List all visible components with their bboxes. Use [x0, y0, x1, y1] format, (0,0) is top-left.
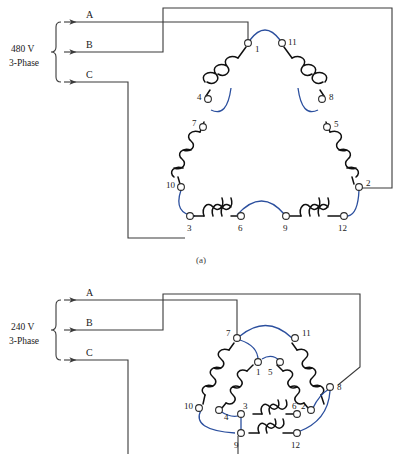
terminal-b-3[interactable] [238, 411, 245, 418]
terminal-a-11[interactable] [279, 40, 286, 47]
source-brace-b [51, 300, 61, 360]
terminal-a-5[interactable] [324, 124, 331, 131]
terminal-label-a-1: 1 [255, 44, 260, 54]
line-label-a-B: B [86, 39, 93, 50]
coil-a-9-12 [290, 198, 340, 216]
jumper-a-12-2 [348, 190, 359, 216]
line-label-b-A: A [86, 287, 94, 298]
terminal-b-6[interactable] [294, 411, 301, 418]
terminal-b-7[interactable] [234, 335, 241, 342]
terminal-b-2[interactable] [308, 407, 315, 414]
jumper-a-4-7 [211, 88, 231, 112]
terminal-b-12[interactable] [294, 430, 301, 437]
terminal-a-10[interactable] [178, 184, 185, 191]
jumper-a-1-11 [250, 30, 280, 40]
terminal-a-9[interactable] [283, 213, 290, 220]
coil-b-7-10 [202, 343, 234, 404]
line-label-b-C: C [86, 347, 93, 358]
line-wire-a-B [76, 8, 392, 188]
terminal-b-11[interactable] [292, 335, 299, 342]
terminal-b-8[interactable] [327, 384, 334, 391]
line-label-a-C: C [86, 69, 93, 80]
terminal-label-b-6: 6 [292, 401, 297, 411]
diagram-b: 240 V 3-Phase A B C [9, 287, 360, 454]
coil-a-11-8 [284, 47, 327, 96]
terminal-label-b-3: 3 [243, 401, 248, 411]
jumper-a-8-5 [298, 88, 318, 112]
source-voltage-b: 240 V [11, 322, 34, 332]
terminal-b-5[interactable] [277, 359, 284, 366]
terminal-b-10[interactable] [196, 405, 203, 412]
source-phase-b: 3-Phase [9, 336, 39, 346]
terminal-b-4[interactable] [216, 407, 223, 414]
terminal-a-2[interactable] [356, 184, 363, 191]
jumper-a-6-9 [237, 201, 285, 215]
terminal-label-b-8: 8 [337, 382, 342, 392]
terminal-a-4[interactable] [205, 96, 212, 103]
line-wire-b-C [76, 360, 128, 454]
terminal-label-b-5: 5 [268, 367, 273, 377]
coil-b-1-4 [222, 365, 253, 408]
terminal-label-a-5: 5 [334, 119, 339, 129]
coil-b-9-12 [249, 419, 293, 433]
terminal-b-1[interactable] [255, 359, 262, 366]
line-wire-a-C [76, 82, 185, 238]
coil-a-3-6 [193, 198, 238, 216]
terminal-label-b-11: 11 [302, 328, 311, 338]
terminal-label-a-3: 3 [187, 223, 192, 233]
coil-a-7-10 [172, 122, 204, 184]
terminal-a-7[interactable] [200, 124, 207, 131]
terminal-label-a-12: 12 [338, 223, 347, 233]
terminal-label-a-11: 11 [288, 37, 297, 47]
terminal-label-b-7: 7 [226, 328, 231, 338]
terminal-label-a-2: 2 [366, 178, 371, 188]
line-wire-a-A [76, 22, 248, 40]
jumper-a-10-3 [179, 190, 195, 216]
jumper-b-10-9 [199, 410, 235, 433]
terminal-a-3[interactable] [187, 213, 194, 220]
terminal-label-a-10: 10 [166, 180, 176, 190]
terminal-b-9[interactable] [238, 430, 245, 437]
terminal-label-b-1: 1 [256, 367, 261, 377]
line-label-b-B: B [86, 317, 93, 328]
terminal-label-b-12: 12 [291, 440, 300, 450]
terminal-label-b-10: 10 [184, 401, 194, 411]
jumper-b-7-1 [240, 340, 258, 360]
motor-connection-diagrams: 480 V 3-Phase A B C [0, 0, 405, 454]
terminal-label-b-4: 4 [224, 412, 229, 422]
source-voltage-a: 480 V [11, 44, 34, 54]
figure-container: 480 V 3-Phase A B C [0, 0, 405, 454]
terminal-label-a-7: 7 [192, 118, 197, 128]
line-wire-b-B [76, 294, 360, 385]
diagram-a: 480 V 3-Phase A B C [9, 8, 392, 265]
caption-a: (a) [196, 255, 206, 265]
terminal-a-8[interactable] [319, 96, 326, 103]
terminal-a-12[interactable] [341, 213, 348, 220]
terminal-label-a-6: 6 [238, 223, 243, 233]
terminal-a-1[interactable] [245, 40, 252, 47]
source-brace-a [51, 22, 61, 82]
coil-a-1-4 [203, 47, 246, 96]
coil-a-5-2 [326, 122, 358, 184]
terminal-label-a-4: 4 [197, 92, 202, 102]
terminal-a-6[interactable] [238, 213, 245, 220]
jumper-b-7-11 [240, 325, 292, 338]
source-phase-a: 3-Phase [9, 58, 39, 68]
terminal-label-b-2: 2 [301, 401, 306, 411]
coil-b-3-6 [253, 400, 294, 414]
terminal-label-b-9: 9 [234, 440, 239, 450]
terminal-label-a-9: 9 [283, 223, 288, 233]
terminal-label-a-8: 8 [329, 92, 334, 102]
line-label-a-A: A [86, 9, 94, 20]
